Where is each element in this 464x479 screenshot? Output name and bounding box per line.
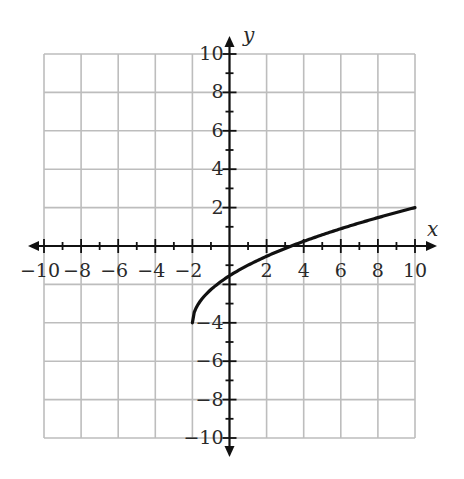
x-tick-label: −4 <box>137 259 165 281</box>
y-axis-label: y <box>242 23 255 47</box>
x-tick-label: −6 <box>100 259 128 281</box>
x-tick-label: 6 <box>335 259 347 281</box>
y-tick-label: −4 <box>195 311 223 333</box>
y-tick-label: −6 <box>195 349 223 371</box>
x-tick-label: 8 <box>372 259 384 281</box>
y-axis-up-arrow-icon <box>225 36 235 47</box>
x-tick-label: −8 <box>63 259 91 281</box>
function-graph: −10−8−6−4−2246810108642−4−6−8−10 x y <box>0 0 464 479</box>
y-tick-label: −10 <box>183 426 223 448</box>
x-tick-label: 2 <box>261 259 273 281</box>
x-axis-left-arrow-icon <box>28 241 39 251</box>
x-tick-label: −2 <box>174 259 202 281</box>
x-tick-label: 4 <box>298 259 310 281</box>
x-tick-label: −10 <box>20 259 60 281</box>
y-tick-label: 4 <box>211 157 223 179</box>
axes <box>28 36 437 457</box>
y-tick-label: 10 <box>199 42 223 64</box>
y-tick-label: 8 <box>211 80 223 102</box>
y-axis-down-arrow-icon <box>225 446 235 457</box>
y-tick-label: 2 <box>211 196 223 218</box>
y-tick-label: −8 <box>195 388 223 410</box>
x-tick-label: 10 <box>403 259 427 281</box>
y-tick-label: 6 <box>211 119 223 141</box>
x-axis-label: x <box>427 217 438 241</box>
x-axis-right-arrow-icon <box>426 241 437 251</box>
